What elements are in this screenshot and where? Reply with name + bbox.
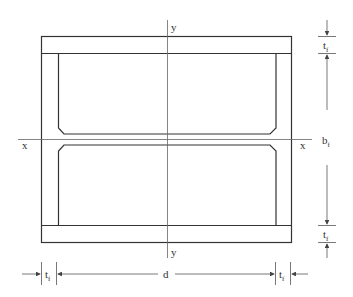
dim-depth: d bbox=[163, 268, 169, 280]
axes bbox=[18, 20, 312, 258]
y-axis-label-bottom: y bbox=[171, 246, 177, 258]
dim-flange-width: bf bbox=[322, 134, 331, 149]
dim-right-web-thickness: tf bbox=[279, 268, 285, 283]
x-axis-label-right: x bbox=[300, 139, 306, 151]
y-axis-label-top: y bbox=[171, 21, 177, 33]
x-axis-label-left: x bbox=[22, 139, 28, 151]
dim-top-flange-thickness: tf bbox=[323, 39, 329, 54]
box-section-diagram: x x y y tf bf tf tf d tf bbox=[0, 0, 353, 297]
dim-left-web-thickness: tf bbox=[45, 268, 51, 283]
dim-bottom-flange-thickness: tf bbox=[323, 228, 329, 243]
